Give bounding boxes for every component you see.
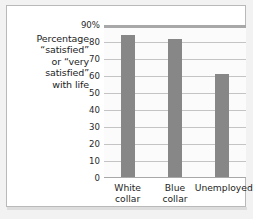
- x-axis-category-label-line: Unemployed: [195, 182, 250, 193]
- x-axis-category-label-line: collar: [147, 193, 202, 204]
- y-axis-tick-label: 50: [67, 89, 100, 98]
- y-axis-tick-labels: 0102030405060708090%: [67, 25, 100, 178]
- figure-panel: Percentage“satisfied”or “verysatisfied”w…: [6, 5, 246, 207]
- y-axis-tick-label: 40: [67, 106, 100, 115]
- x-axis-category-label: Unemployed: [195, 182, 250, 193]
- x-axis-category-labels: WhitecollarBluecollarUnemployed: [104, 182, 246, 208]
- y-axis-tick-label: 60: [67, 72, 100, 81]
- y-axis-tick-label: 80: [67, 38, 100, 47]
- panel-shadow: [7, 207, 247, 210]
- y-axis-tick-label: 0: [67, 174, 100, 183]
- bar: [121, 35, 135, 178]
- y-axis-tick-label: 70: [67, 55, 100, 64]
- bar: [168, 39, 182, 178]
- bar: [215, 74, 229, 178]
- bars-layer: [104, 25, 246, 178]
- y-axis-tick-label: 30: [67, 123, 100, 132]
- figure-frame: Percentage“satisfied”or “verysatisfied”w…: [0, 0, 253, 219]
- plot-area: [104, 25, 246, 178]
- y-axis-tick-label: 20: [67, 140, 100, 149]
- y-axis-tick-label: 90%: [67, 21, 100, 30]
- y-axis-tick-label: 10: [67, 157, 100, 166]
- x-axis-baseline: [104, 177, 246, 178]
